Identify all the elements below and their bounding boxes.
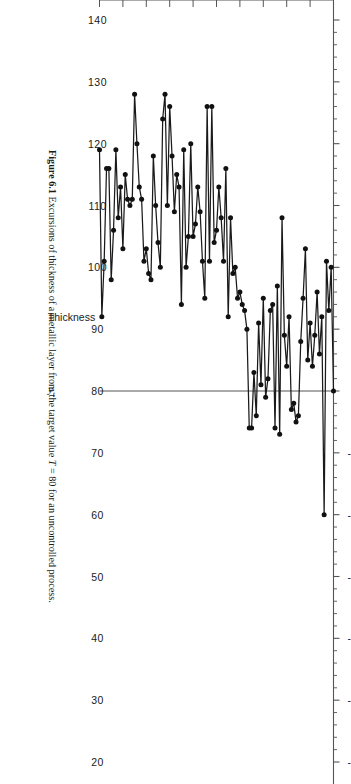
disturbance-tick-label: - 50 — [347, 694, 351, 706]
chart-svg — [91, 0, 351, 784]
thickness-tick-label: 100 — [87, 261, 106, 273]
thickness-tick-label: 80 — [91, 385, 104, 397]
figure-caption: Figure 6.1 Excursions of thickness of a … — [44, 150, 59, 620]
disturbance-tick-label: - 40 — [347, 632, 351, 644]
thickness-tick-label: 120 — [87, 138, 106, 150]
thickness-tick-label: 30 — [91, 694, 104, 706]
thickness-tick-label: 110 — [88, 200, 106, 212]
caption-body: Excursions of thickness of a metallic la… — [46, 197, 57, 458]
figure-stage: 1401301201101009080706050403020 60504030… — [0, 0, 351, 784]
thickness-tick-label: 140 — [87, 14, 106, 26]
disturbance-tick-label: - 20 — [347, 509, 351, 521]
disturbance-tick-label: - 60 — [347, 756, 351, 768]
thickness-tick-label: 90 — [91, 323, 104, 335]
series-line — [99, 94, 333, 514]
disturbance-tick-label: - 10 — [347, 447, 351, 459]
thickness-tick-label: 20 — [91, 756, 104, 768]
time-axis-ticks — [99, 0, 333, 7]
thickness-tick-label: 40 — [91, 632, 104, 644]
figure-label: Figure 6.1 — [46, 150, 57, 194]
thickness-tick-label: 60 — [91, 509, 104, 521]
plot-area: 1401301201101009080706050403020 60504030… — [91, 0, 351, 784]
thickness-tick-label: 70 — [91, 447, 104, 459]
caption-tail: = 80 for an uncontrolled process. — [46, 468, 57, 603]
series-markers — [97, 92, 336, 517]
caption-symbol: T — [46, 460, 57, 466]
disturbance-tick-label: - 30 — [347, 571, 351, 583]
thickness-tick-label: 50 — [91, 571, 104, 583]
thickness-tick-label: 130 — [87, 76, 106, 88]
